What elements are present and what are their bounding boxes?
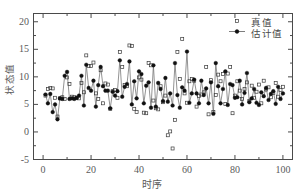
- y-tick-label: 15: [4, 44, 29, 54]
- y-tick-label: 10: [4, 72, 29, 82]
- chart-figure: 状态值 时序 -505101520020406080100 真值 估计值: [0, 0, 304, 196]
- y-tick-label: 20: [4, 17, 29, 27]
- estimated-series-line: [45, 52, 282, 120]
- x-tick-label: 0: [28, 165, 58, 175]
- legend-symbols: [229, 20, 245, 34]
- x-tick-label: 80: [220, 165, 250, 175]
- x-tick-label: 60: [172, 165, 202, 175]
- estimated-series-markers: [44, 50, 285, 121]
- x-axis-label: 时序: [0, 176, 304, 191]
- x-tick-label: 100: [268, 165, 298, 175]
- y-tick-label: -5: [4, 155, 29, 165]
- y-tick-label: 0: [4, 127, 29, 137]
- legend-label-estimated: 估计值: [251, 26, 283, 40]
- x-tick-label: 20: [76, 165, 106, 175]
- y-tick-label: 5: [4, 99, 29, 109]
- x-tick-label: 40: [124, 165, 154, 175]
